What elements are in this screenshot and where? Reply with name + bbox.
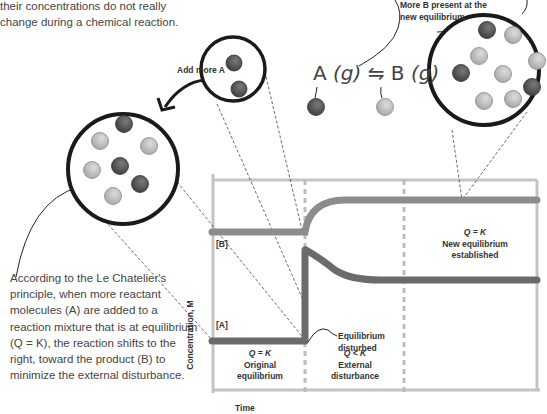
pointer-explanation — [16, 187, 79, 277]
series-label-b: [B] — [216, 239, 228, 251]
explanation-text: According to the Le Chatelier's principl… — [10, 270, 200, 383]
series-label-a: [A] — [216, 320, 228, 332]
product: B — [391, 61, 405, 85]
reactant: A — [313, 61, 327, 85]
region-original: Q = K Original equilibrium — [215, 348, 305, 383]
pointer-eq-arrow — [359, 0, 400, 66]
reactant-phase: (g) — [333, 61, 361, 85]
y-axis-label: Concentration, M — [185, 265, 195, 405]
x-axis-label: Time — [235, 403, 255, 413]
pointer-disturbed — [308, 329, 337, 342]
intro-text: their concentrations do not really chang… — [0, 0, 210, 30]
add-a-arrow — [165, 80, 205, 107]
reaction-equation: A (g) ⇋ B (g) — [313, 61, 439, 85]
product-phase: (g) — [411, 61, 439, 85]
equilibrium-arrow: ⇋ — [368, 61, 385, 85]
add-more-a-label: Add more A — [177, 65, 225, 75]
region-disturbance: Q < K External disturbance — [308, 348, 402, 383]
pointer-top-right — [522, 0, 527, 14]
more-b-note: More B present at the new equilibrium. — [400, 0, 500, 23]
region-new-equilibrium: Q = K New equilibrium established — [420, 227, 530, 262]
equation-molecules — [308, 87, 394, 116]
original-mixture-circle — [68, 114, 178, 224]
